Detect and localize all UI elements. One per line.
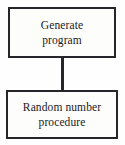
flowchart-node-random-number-procedure: Random number procedure bbox=[6, 90, 118, 139]
node-random-number-procedure-line-2: procedure bbox=[39, 115, 86, 130]
node-random-number-procedure-line-1: Random number bbox=[23, 100, 101, 115]
connector-generate-program-to-random-number-procedure bbox=[61, 57, 64, 91]
node-generate-program-line-2: program bbox=[42, 33, 82, 48]
node-generate-program-line-1: Generate bbox=[41, 18, 83, 33]
flowchart-node-generate-program: Generate program bbox=[8, 7, 116, 58]
flowchart-diagram: Generate program Random number procedure bbox=[0, 0, 125, 145]
